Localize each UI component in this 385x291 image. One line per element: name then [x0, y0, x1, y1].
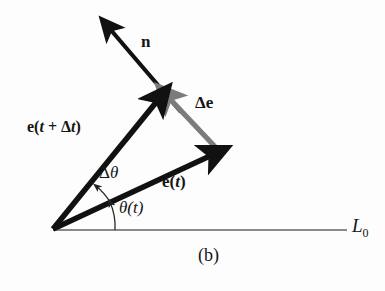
- close-paren: ): [76, 118, 81, 135]
- delta-glyph: Δ: [99, 163, 110, 182]
- label-vector-delta-e: Δe: [195, 94, 213, 111]
- label-vector-e-of-t: e(t): [162, 173, 186, 190]
- label-vector-n: n: [141, 33, 150, 50]
- figure-container: n Δe e(t) e(t + Δt) Δθ θ(t) L0 (b): [0, 0, 385, 291]
- vector-diagram-canvas: [0, 0, 385, 291]
- label-angle-delta-theta: Δθ: [99, 164, 118, 181]
- figure-caption: (b): [198, 246, 219, 264]
- vector-e-t: [53, 155, 212, 229]
- label-angle-theta-of-t: θ(t): [119, 199, 143, 216]
- delta-e-name: e: [206, 93, 214, 112]
- L-subscript: 0: [363, 226, 369, 240]
- close-paren: ): [138, 198, 144, 217]
- L-glyph: L: [352, 215, 363, 236]
- delta-glyph: Δ: [61, 118, 71, 135]
- arc-delta-theta: [96, 186, 110, 202]
- delta-glyph: Δ: [195, 93, 206, 112]
- theta-glyph: θ: [110, 163, 118, 182]
- close-paren: ): [180, 172, 186, 191]
- label-baseline-L0: L0: [352, 216, 369, 239]
- label-vector-e-of-t-plus-delta-t: e(t + Δt): [27, 119, 81, 135]
- arc-theta-of-t: [110, 202, 115, 230]
- plus-sign: +: [44, 118, 61, 135]
- e-name: e: [162, 172, 170, 191]
